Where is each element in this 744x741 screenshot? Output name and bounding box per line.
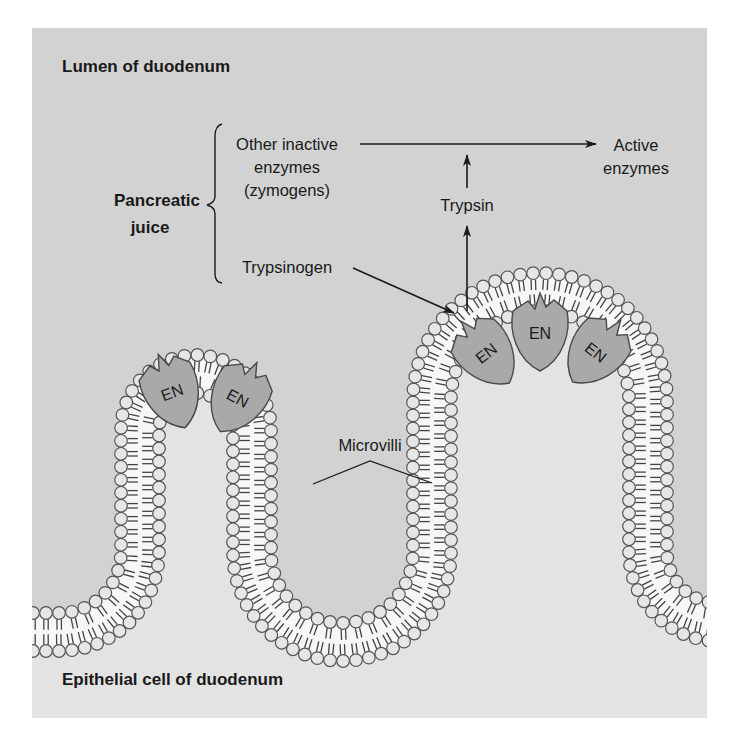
- phospholipid-head: [53, 607, 66, 620]
- phospholipid-head: [638, 322, 651, 335]
- phospholipid-head: [404, 565, 417, 578]
- phospholipid-head: [645, 333, 658, 346]
- phospholipid-head: [445, 482, 458, 495]
- phospholipid-head: [455, 294, 468, 307]
- phospholipid-head: [623, 442, 636, 455]
- phospholipid-head: [623, 546, 636, 559]
- phospholipid-head: [115, 539, 128, 552]
- phospholipid-head: [661, 512, 674, 525]
- phospholipid-head: [621, 377, 634, 390]
- phospholipid-head: [363, 651, 376, 664]
- phospholipid-head: [624, 559, 637, 572]
- phospholipid-head: [78, 642, 91, 655]
- phospholipid-head: [153, 442, 166, 455]
- phospholipid-head: [227, 523, 240, 536]
- phospholipid-head: [590, 280, 603, 293]
- phospholipid-head: [553, 268, 566, 281]
- phospholipid-head: [651, 345, 664, 358]
- phospholipid-head: [387, 642, 400, 655]
- active-enzymes-label-line2: enzymes: [603, 159, 669, 177]
- phospholipid-head: [227, 497, 240, 510]
- phospholipid-head: [115, 474, 128, 487]
- phospholipid-head: [412, 358, 425, 371]
- phospholipid-head: [489, 275, 502, 288]
- phospholipid-head: [107, 576, 120, 589]
- phospholipid-head: [204, 350, 217, 363]
- phospholipid-head: [445, 508, 458, 521]
- phospholipid-head: [661, 499, 674, 512]
- microvilli-label: Microvilli: [338, 436, 401, 454]
- phospholipid-head: [702, 634, 715, 647]
- phospholipid-head: [416, 345, 429, 358]
- phospholipid-head: [115, 435, 128, 448]
- phospholipid-head: [120, 396, 133, 409]
- phospholipid-head: [432, 597, 445, 610]
- phospholipid-head: [728, 635, 741, 648]
- phospholipid-head: [112, 564, 125, 577]
- phospholipid-head: [153, 455, 166, 468]
- phospholipid-head: [265, 437, 278, 450]
- phospholipid-head: [103, 632, 116, 645]
- phospholipid-head: [362, 612, 375, 625]
- phospholipid-head: [445, 456, 458, 469]
- phospholipid-head: [407, 487, 420, 500]
- other-inactive-enzymes-label-line3: (zymogens): [244, 181, 330, 199]
- phospholipid-head: [623, 468, 636, 481]
- phospholipid-head: [40, 645, 53, 658]
- phospholipid-head: [289, 599, 302, 612]
- phospholipid-head: [27, 645, 40, 658]
- phospholipid-head: [227, 549, 240, 562]
- phospholipid-head: [445, 495, 458, 508]
- phospholipid-head: [153, 494, 166, 507]
- epithelial-cell-label: Epithelial cell of duodenum: [62, 670, 283, 689]
- phospholipid-head: [677, 628, 690, 641]
- phospholipid-head: [715, 597, 728, 610]
- phospholipid-head: [666, 622, 679, 635]
- phospholipid-head: [227, 536, 240, 549]
- phospholipid-head: [702, 596, 715, 609]
- phospholipid-head: [407, 422, 420, 435]
- phospholipid-head: [661, 447, 674, 460]
- phospholipid-head: [623, 390, 636, 403]
- phospholipid-head: [66, 644, 79, 657]
- phospholipid-head: [661, 408, 674, 421]
- phospholipid-head: [578, 275, 591, 288]
- phospholipid-head: [152, 559, 165, 572]
- phospholipid-head: [527, 267, 540, 280]
- phospholipid-head: [623, 416, 636, 429]
- phospholipid-head: [115, 487, 128, 500]
- phospholipid-head: [337, 617, 350, 630]
- phospholipid-head: [217, 354, 230, 367]
- phospholipid-head: [623, 520, 636, 533]
- phospholipid-head: [658, 369, 671, 382]
- pancreatic-juice-label-line1: Pancreatic: [114, 191, 200, 210]
- phospholipid-head: [661, 395, 674, 408]
- enzyme-label: EN: [529, 325, 551, 342]
- phospholipid-head: [449, 365, 462, 378]
- phospholipid-head: [689, 632, 702, 645]
- phospholipid-head: [227, 432, 240, 445]
- phospholipid-head: [350, 615, 363, 628]
- phospholipid-head: [623, 507, 636, 520]
- phospholipid-head: [623, 494, 636, 507]
- phospholipid-head: [265, 554, 278, 567]
- phospholipid-head: [501, 271, 514, 284]
- phospholipid-head: [375, 647, 388, 660]
- phospholipid-head: [227, 510, 240, 523]
- phospholipid-head: [399, 577, 412, 590]
- phospholipid-head: [445, 417, 458, 430]
- phospholipid-head: [227, 484, 240, 497]
- phospholipid-head: [393, 588, 406, 601]
- phospholipid-head: [661, 486, 674, 499]
- phospholipid-head: [407, 448, 420, 461]
- phospholipid-head: [661, 525, 674, 538]
- phospholipid-head: [115, 461, 128, 474]
- phospholipid-head: [231, 575, 244, 588]
- phospholipid-head: [91, 638, 104, 651]
- phospholipid-head: [655, 614, 668, 627]
- phospholipid-head: [445, 521, 458, 534]
- phospholipid-head: [265, 424, 278, 437]
- phospholipid-head: [623, 403, 636, 416]
- phospholipid-head: [445, 430, 458, 443]
- phospholipid-head: [407, 396, 420, 409]
